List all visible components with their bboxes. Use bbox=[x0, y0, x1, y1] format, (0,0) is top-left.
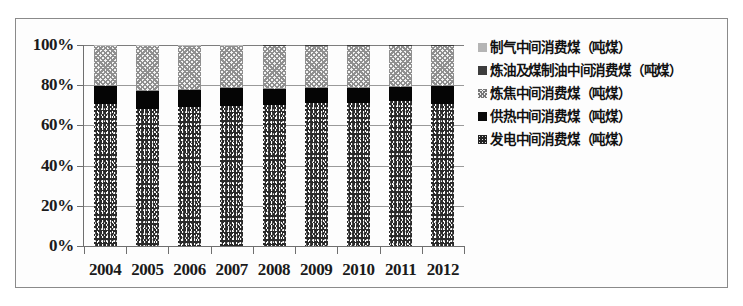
bar-segment-gongre bbox=[94, 86, 117, 104]
legend-swatch-icon bbox=[478, 89, 487, 98]
legend-item-lianyou[interactable]: 炼油及煤制油中间消费煤（吨煤） bbox=[478, 60, 721, 81]
bar-segment-gongre bbox=[136, 91, 159, 109]
bar-2011[interactable] bbox=[389, 45, 412, 246]
y-axis-label: 20% bbox=[41, 196, 74, 216]
x-axis-label-2005: 2005 bbox=[131, 260, 163, 280]
x-axis-label-2004: 2004 bbox=[89, 260, 121, 280]
bar-segment-gongre bbox=[389, 87, 412, 101]
x-tick bbox=[253, 246, 254, 254]
y-axis-label: 100% bbox=[33, 35, 74, 55]
x-axis-label-2011: 2011 bbox=[385, 260, 416, 280]
legend-swatch-icon bbox=[478, 66, 487, 75]
y-tick-100% bbox=[77, 45, 84, 46]
bar-segment-lianjiao bbox=[389, 46, 412, 87]
bar-segment-lianjiao bbox=[431, 46, 454, 86]
bar-segment-gongre bbox=[431, 86, 454, 103]
bar-2007[interactable] bbox=[220, 45, 243, 246]
bar-2005[interactable] bbox=[136, 45, 159, 246]
bar-segment-gongre bbox=[347, 88, 370, 102]
x-axis-label-2010: 2010 bbox=[342, 260, 374, 280]
bar-segment-fadian bbox=[178, 107, 201, 246]
x-tick bbox=[211, 246, 212, 254]
bar-2008[interactable] bbox=[263, 45, 286, 246]
y-axis-label: 0% bbox=[49, 236, 74, 256]
x-tick bbox=[168, 246, 169, 254]
x-axis-label-2006: 2006 bbox=[173, 260, 205, 280]
y-tick-40% bbox=[77, 166, 84, 167]
legend-item-zhiqi[interactable]: 制气中间消费煤（吨煤） bbox=[478, 37, 721, 58]
legend-item-label: 制气中间消费煤（吨煤） bbox=[490, 37, 631, 58]
bar-segment-fadian bbox=[347, 103, 370, 247]
legend-item-label: 炼油及煤制油中间消费煤（吨煤） bbox=[490, 60, 682, 81]
legend-item-label: 发电中间消费煤（吨煤） bbox=[490, 129, 631, 150]
bar-segment-fadian bbox=[94, 104, 117, 246]
bar-segment-fadian bbox=[305, 103, 328, 246]
bar-2004[interactable] bbox=[94, 45, 117, 246]
bar-segment-fadian bbox=[431, 104, 454, 247]
bar-segment-gongre bbox=[220, 88, 243, 106]
bar-segment-fadian bbox=[389, 101, 412, 246]
chart-frame: 0%20%40%60%80%100% 200420052006200720082… bbox=[15, 18, 728, 288]
x-axis-label-2009: 2009 bbox=[300, 260, 332, 280]
x-tick bbox=[126, 246, 127, 254]
x-tick bbox=[380, 246, 381, 254]
bar-2009[interactable] bbox=[305, 45, 328, 246]
x-axis-label-2008: 2008 bbox=[258, 260, 290, 280]
x-tick bbox=[464, 246, 465, 254]
x-tick bbox=[422, 246, 423, 254]
legend-swatch-icon bbox=[478, 43, 487, 52]
legend-swatch-icon bbox=[478, 112, 487, 121]
bar-segment-lianjiao bbox=[305, 46, 328, 88]
plot-area: 0%20%40%60%80%100% 200420052006200720082… bbox=[84, 45, 464, 246]
x-tick bbox=[84, 246, 85, 254]
y-tick-80% bbox=[77, 85, 84, 86]
legend-item-gongre[interactable]: 供热中间消费煤（吨煤） bbox=[478, 106, 721, 127]
bar-segment-gongre bbox=[263, 89, 286, 105]
x-axis-line bbox=[83, 246, 464, 247]
bar-segment-gongre bbox=[305, 88, 328, 104]
bar-segment-fadian bbox=[220, 106, 243, 246]
legend-item-lianjiao[interactable]: 炼焦中间消费煤（吨煤） bbox=[478, 83, 721, 104]
chart-legend: 制气中间消费煤（吨煤）炼油及煤制油中间消费煤（吨煤）炼焦中间消费煤（吨煤）供热中… bbox=[478, 37, 721, 152]
bar-segment-gongre bbox=[178, 90, 201, 107]
legend-item-label: 炼焦中间消费煤（吨煤） bbox=[490, 83, 631, 104]
y-axis-label: 80% bbox=[41, 75, 74, 95]
bars-layer bbox=[84, 45, 464, 246]
x-axis-label-2007: 2007 bbox=[216, 260, 248, 280]
y-tick-60% bbox=[77, 125, 84, 126]
bar-segment-lianjiao bbox=[347, 46, 370, 88]
bar-2006[interactable] bbox=[178, 45, 201, 246]
y-tick-20% bbox=[77, 206, 84, 207]
y-axis-label: 40% bbox=[41, 156, 74, 176]
bar-segment-lianjiao bbox=[178, 46, 201, 90]
x-tick bbox=[337, 246, 338, 254]
x-tick bbox=[295, 246, 296, 254]
legend-item-fadian[interactable]: 发电中间消费煤（吨煤） bbox=[478, 129, 721, 150]
bar-2012[interactable] bbox=[431, 45, 454, 246]
bar-segment-lianjiao bbox=[263, 46, 286, 89]
bar-segment-lianjiao bbox=[136, 46, 159, 91]
bar-2010[interactable] bbox=[347, 45, 370, 246]
y-axis-label: 60% bbox=[41, 115, 74, 135]
x-axis-label-2012: 2012 bbox=[427, 260, 459, 280]
bar-segment-fadian bbox=[263, 105, 286, 247]
legend-item-label: 供热中间消费煤（吨煤） bbox=[490, 106, 631, 127]
bar-segment-lianjiao bbox=[94, 46, 117, 86]
bar-segment-lianjiao bbox=[220, 46, 243, 88]
bar-segment-fadian bbox=[136, 109, 159, 246]
legend-swatch-icon bbox=[478, 135, 487, 144]
